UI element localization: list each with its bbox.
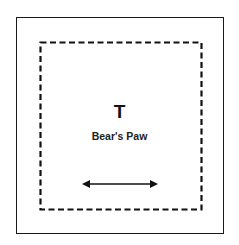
pattern-letter: T: [0, 102, 239, 122]
pattern-label: Bear's Paw: [0, 130, 239, 142]
double-arrow-icon: [80, 178, 160, 190]
